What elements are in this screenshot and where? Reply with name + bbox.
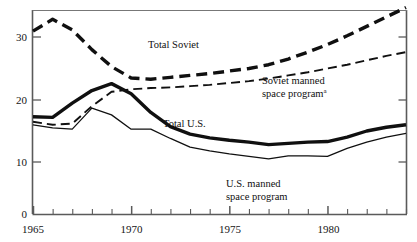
x-tick-label-1980: 1980 <box>318 223 341 235</box>
x-tick-label-1975: 1975 <box>219 223 242 235</box>
series-label-total-soviet: Total Soviet <box>148 39 199 50</box>
y-tick-label-30: 30 <box>16 31 28 43</box>
series-label-soviet-manned-line2: space programa <box>262 87 328 99</box>
y-tick-label-10: 10 <box>16 156 28 168</box>
chart-background <box>0 0 417 242</box>
line-chart: 30 20 10 0 1965 1970 1975 1980 Total Sov… <box>0 0 417 242</box>
x-tick-label-1965: 1965 <box>22 223 45 235</box>
x-tick-label-1970: 1970 <box>121 223 144 235</box>
series-label-us-manned-line2: space program <box>226 191 288 202</box>
y-tick-label-0: 0 <box>22 208 28 220</box>
series-label-us-manned-line1: U.S. manned <box>226 178 281 189</box>
y-tick-label-20: 20 <box>16 94 28 106</box>
series-label-soviet-manned-line1: Soviet manned <box>262 75 325 86</box>
series-label-total-us: Total U.S. <box>163 118 206 129</box>
chart-container: 30 20 10 0 1965 1970 1975 1980 Total Sov… <box>0 0 417 242</box>
